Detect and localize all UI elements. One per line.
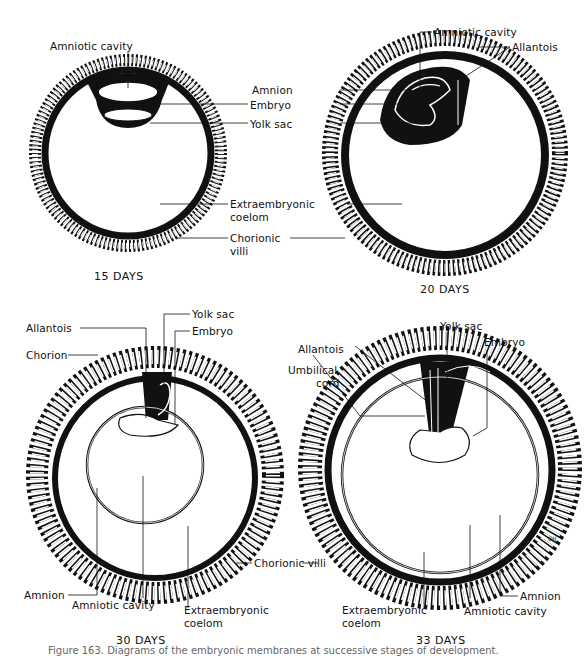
label-amnion-30: Amnion (24, 589, 65, 601)
panel-title-15-days: 15 DAYS (94, 270, 144, 283)
label-extraembryonic-coelom-33-line1: Extraembryonic (342, 604, 427, 616)
label-allantois-33: Allantois (298, 343, 344, 355)
label-allantois-30: Allantois (26, 322, 72, 334)
label-extraembryonic-coelom-30-line2: coelom (184, 617, 223, 629)
label-chorionic-villi-30-33: Chorionic villi (254, 557, 326, 569)
label-embryo-30: Embryo (192, 325, 233, 337)
label-extraembryonic-coelom-15-line2: coelom (230, 211, 269, 223)
label-amniotic-cavity-20: Amniotic cavity (434, 26, 517, 38)
panel-20-days (290, 32, 560, 268)
panel-33-days (302, 332, 570, 608)
label-amniotic-cavity-15: Amniotic cavity (50, 40, 133, 52)
label-chorionic-villi-15-line2: villi (230, 245, 248, 257)
embryo-shape (119, 414, 178, 436)
label-chorionic-villi-15-line1: Chorionic (230, 232, 280, 244)
panel-title-20-days: 20 DAYS (420, 283, 470, 296)
label-yolk-sac-15: Yolk sac (250, 118, 292, 130)
artist-mark: OJI (548, 533, 557, 545)
label-allantois-20: Allantois (512, 41, 558, 53)
label-amniotic-cavity-33: Amniotic cavity (464, 605, 547, 617)
embryo-shape (410, 427, 470, 462)
yolk-sac-shape (104, 109, 152, 121)
label-extraembryonic-coelom-15-line1: Extraembryonic (230, 198, 315, 210)
label-yolk-sac-33: Yolk sac (440, 320, 482, 332)
panel-15-days (35, 52, 248, 246)
figure-caption: Figure 163. Diagrams of the embryonic me… (48, 645, 499, 656)
label-yolk-sac-30: Yolk sac (192, 308, 234, 320)
panel-30-days (37, 314, 273, 608)
label-chorion-30: Chorion (26, 349, 67, 361)
label-amnion-15: Amnion (252, 84, 293, 96)
label-amnion-33: Amnion (520, 590, 561, 602)
label-extraembryonic-coelom-30-line1: Extraembryonic (184, 604, 269, 616)
label-umbilical-cord-33-line1: Umbilical (288, 364, 337, 376)
label-extraembryonic-coelom-33-line2: coelom (342, 617, 381, 629)
label-amniotic-cavity-30: Amniotic cavity (72, 599, 155, 611)
label-embryo-33: Embryo (484, 336, 525, 348)
label-embryo-15: Embryo (250, 99, 291, 111)
label-umbilical-cord-33-line2: cord (316, 377, 339, 389)
